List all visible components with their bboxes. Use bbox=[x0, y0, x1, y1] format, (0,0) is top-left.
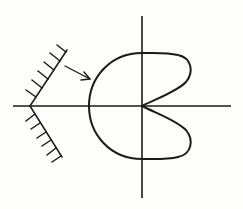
diagram-canvas bbox=[0, 0, 243, 209]
diagram-figure bbox=[0, 0, 243, 209]
coordinate-axes bbox=[13, 16, 231, 198]
upper-hatch-marks bbox=[26, 45, 66, 97]
direction-arrow bbox=[65, 66, 90, 80]
hatched-wedge bbox=[26, 45, 67, 162]
arrow-shaft bbox=[65, 66, 90, 79]
lower-hatch-marks bbox=[26, 114, 61, 162]
